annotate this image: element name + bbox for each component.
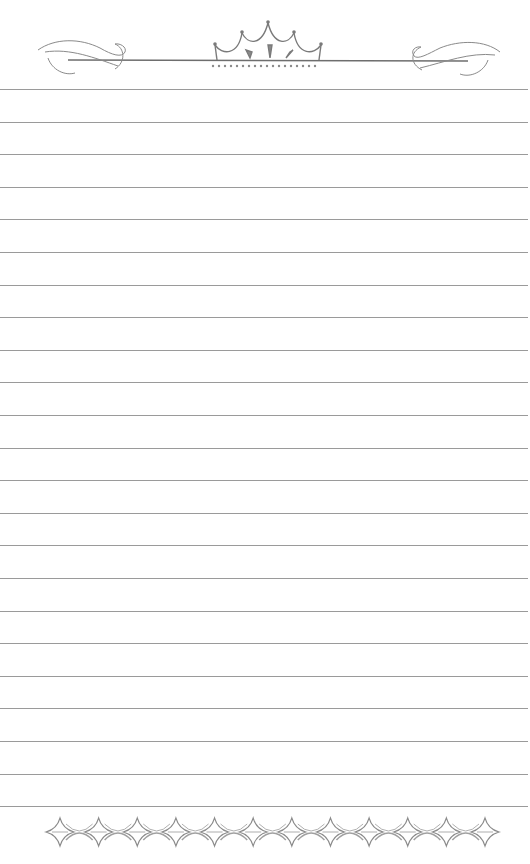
- ruled-line: [0, 187, 528, 188]
- writing-area[interactable]: [0, 0, 530, 864]
- ruled-line: [0, 774, 528, 775]
- ruled-line: [0, 513, 528, 514]
- ruled-line: [0, 741, 528, 742]
- ruled-line: [0, 806, 528, 807]
- stationery-page: [0, 0, 530, 864]
- ruled-line: [0, 643, 528, 644]
- ruled-line: [0, 122, 528, 123]
- ruled-line: [0, 480, 528, 481]
- ruled-line: [0, 252, 528, 253]
- ruled-line: [0, 611, 528, 612]
- ruled-line: [0, 578, 528, 579]
- ruled-line: [0, 708, 528, 709]
- ruled-line: [0, 382, 528, 383]
- ruled-line: [0, 317, 528, 318]
- ruled-line: [0, 676, 528, 677]
- ruled-line: [0, 448, 528, 449]
- ruled-line: [0, 350, 528, 351]
- ruled-line: [0, 219, 528, 220]
- footer-ornament: [0, 810, 530, 860]
- ruled-line: [0, 89, 528, 90]
- ruled-line: [0, 545, 528, 546]
- ruled-line: [0, 285, 528, 286]
- ruled-line: [0, 415, 528, 416]
- star-chain-icon: [46, 818, 499, 846]
- ruled-line: [0, 154, 528, 155]
